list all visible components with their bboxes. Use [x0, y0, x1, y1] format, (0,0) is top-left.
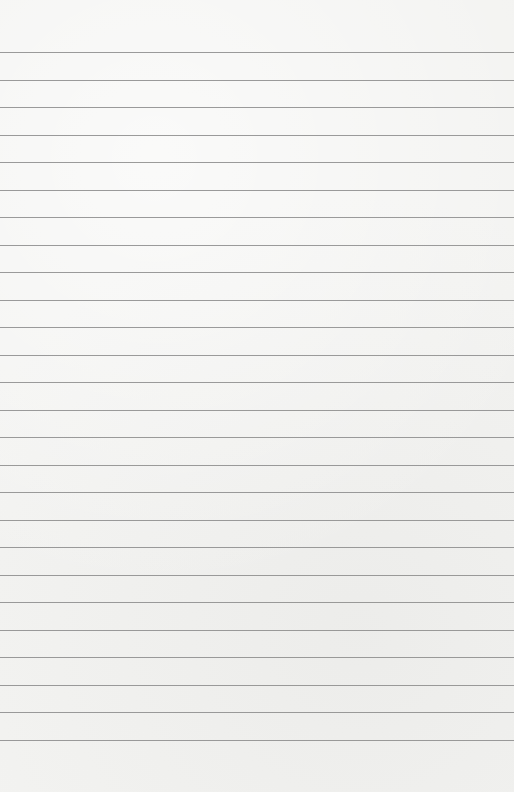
ruled-line — [0, 410, 514, 411]
ruled-line — [0, 162, 514, 163]
ruled-line — [0, 190, 514, 191]
ruled-line — [0, 602, 514, 603]
ruled-line — [0, 657, 514, 658]
ruled-line — [0, 740, 514, 741]
ruled-line — [0, 382, 514, 383]
ruled-line — [0, 245, 514, 246]
ruled-line — [0, 685, 514, 686]
ruled-line — [0, 630, 514, 631]
ruled-line — [0, 465, 514, 466]
ruled-line — [0, 135, 514, 136]
ruled-line — [0, 327, 514, 328]
ruled-line — [0, 52, 514, 53]
ruled-line — [0, 217, 514, 218]
ruled-line — [0, 575, 514, 576]
ruled-line — [0, 107, 514, 108]
lined-paper — [0, 0, 514, 792]
ruled-line — [0, 492, 514, 493]
ruled-line — [0, 80, 514, 81]
ruled-line — [0, 547, 514, 548]
ruled-line — [0, 712, 514, 713]
ruled-line — [0, 355, 514, 356]
ruled-line — [0, 437, 514, 438]
ruled-line — [0, 520, 514, 521]
ruled-line — [0, 300, 514, 301]
ruled-line — [0, 272, 514, 273]
